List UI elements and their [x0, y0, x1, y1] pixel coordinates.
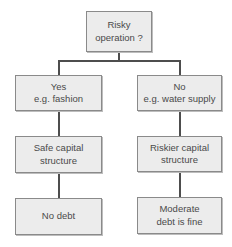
connector-right-structure-to-outcome	[179, 172, 181, 197]
no-debt-line1: No debt	[42, 210, 75, 223]
root-question-line2: operation ?	[95, 32, 143, 45]
moderate-debt-line2: debt is fine	[157, 216, 203, 229]
riskier-structure-line2: structure	[161, 154, 198, 167]
connector-left-structure-to-outcome	[58, 173, 60, 198]
connector-left-down	[58, 60, 60, 75]
connector-horizontal	[58, 60, 181, 62]
safe-structure-box: Safe capital structure	[15, 136, 102, 173]
moderate-debt-line1: Moderate	[159, 203, 199, 216]
yes-answer-line2: e.g. fashion	[34, 93, 83, 106]
root-question-box: Risky operation ?	[86, 11, 152, 52]
connector-left-answer-to-structure	[58, 111, 60, 136]
moderate-debt-box: Moderate debt is fine	[137, 197, 222, 234]
no-answer-box: No e.g. water supply	[137, 75, 222, 111]
no-debt-box: No debt	[15, 198, 102, 235]
safe-structure-line2: structure	[40, 155, 77, 168]
riskier-structure-line1: Riskier capital	[150, 142, 209, 155]
connector-right-answer-to-structure	[179, 111, 181, 136]
no-answer-line2: e.g. water supply	[144, 93, 216, 106]
safe-structure-line1: Safe capital	[34, 142, 84, 155]
yes-answer-line1: Yes	[51, 81, 67, 94]
root-question-line1: Risky	[107, 19, 130, 32]
yes-answer-box: Yes e.g. fashion	[15, 75, 102, 111]
no-answer-line1: No	[173, 81, 185, 94]
connector-right-down	[179, 60, 181, 75]
riskier-structure-box: Riskier capital structure	[137, 136, 222, 172]
